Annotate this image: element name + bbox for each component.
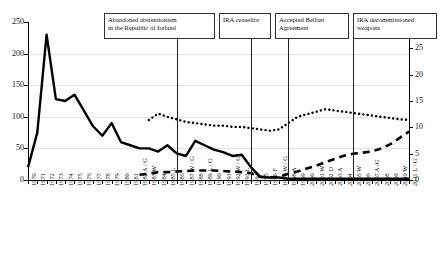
event-line-ann-ceasefire — [251, 39, 252, 180]
annotation-line-2: Agreement — [279, 24, 345, 32]
annotation-line-2: weapons — [357, 24, 433, 32]
y-axis-right — [409, 22, 410, 180]
y-axis-label-right: 10 — [415, 123, 423, 131]
annotation-ann-decommissioned: IRA decommissionedweapons — [353, 13, 437, 39]
series-layer — [28, 22, 409, 180]
x-axis-tick — [316, 181, 317, 184]
y-axis-label-left: 150 — [12, 81, 24, 89]
x-axis-tick — [93, 181, 94, 184]
annotation-line-1: IRA ceasefire — [223, 16, 267, 24]
event-line-ann-decommissioned — [353, 39, 354, 180]
x-axis-tick — [381, 181, 382, 184]
y-axis-label-right: 25 — [415, 44, 423, 52]
y-axis-label-left: 0 — [20, 176, 24, 184]
event-line-ann-abstentionism — [177, 39, 178, 180]
x-axis-tick — [28, 181, 29, 184]
annotation-ann-belfast: Accepted BelfastAgreement — [275, 13, 349, 39]
x-axis-label: 2011 L / G — [412, 159, 418, 186]
x-axis-tick — [121, 181, 122, 184]
annotation-ann-ceasefire: IRA ceasefire — [219, 13, 271, 39]
x-axis-tick — [279, 181, 280, 184]
annotation-ann-abstentionism: Abandoned abstentionismin the Republic o… — [104, 13, 215, 39]
annotation-line-2: in the Republic of Ireland — [108, 24, 211, 32]
x-axis-tick — [251, 181, 252, 184]
x-axis-tick — [158, 181, 159, 184]
x-axis-tick — [186, 181, 187, 184]
x-axis-tick — [409, 181, 410, 184]
event-line-ann-belfast — [288, 39, 289, 180]
x-axis-tick — [223, 181, 224, 184]
annotation-line-1: Abandoned abstentionism — [108, 16, 211, 24]
y-axis-label-left: 250 — [12, 18, 24, 26]
y-axis-label-left: 200 — [12, 50, 24, 58]
y-axis-label-right: 20 — [415, 71, 423, 79]
y-axis-label-left: 100 — [12, 113, 24, 121]
annotation-line-1: IRA decommissioned — [357, 16, 433, 24]
y-axis-label-right: 5 — [415, 150, 419, 158]
y-axis-label-left: 50 — [16, 144, 24, 152]
plot-area: 0501001502002500510152025301970197119721… — [28, 22, 409, 180]
annotation-line-1: Accepted Belfast — [279, 16, 345, 24]
series-dotted-upper — [149, 109, 409, 130]
x-axis-tick — [344, 181, 345, 184]
chart-container: 0501001502002500510152025301970197119721… — [0, 0, 443, 254]
x-axis-tick — [65, 181, 66, 184]
series-deaths-solid — [28, 35, 409, 179]
y-axis-label-right: 15 — [415, 97, 423, 105]
